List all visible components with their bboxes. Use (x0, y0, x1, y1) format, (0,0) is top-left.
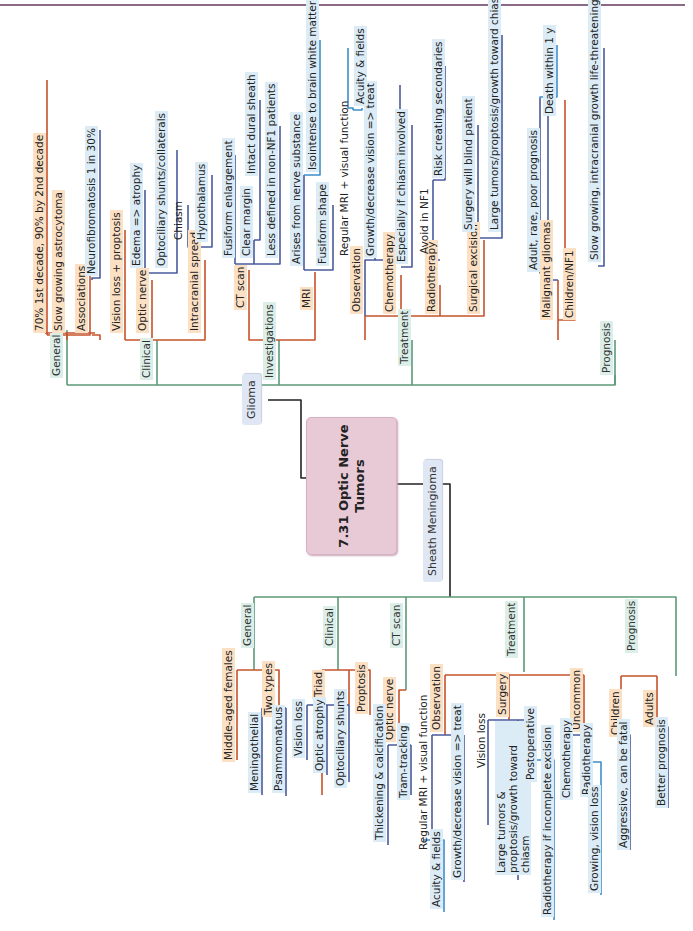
glioma-malignant-gliomas[interactable]: Malignant gliomas (540, 220, 553, 320)
root-title-line2: Tumors (352, 424, 368, 547)
root-topic[interactable]: 7.31 Optic Nerve Tumors (306, 417, 397, 555)
glioma-surgical-excision[interactable]: Surgical excision (467, 222, 480, 314)
men-tram-tracking[interactable]: Tram-tracking (397, 723, 410, 800)
men-aggressive[interactable]: Aggressive, can be fatal (617, 719, 630, 850)
glioma-regular-mri[interactable]: Regular MRI + visual function (338, 99, 351, 258)
glioma-growth-decrease[interactable]: Growth/decrease vision => treat (364, 81, 377, 258)
glioma-edema[interactable]: Edema => atrophy (130, 163, 143, 268)
glioma-treatment[interactable]: Treatment (398, 309, 411, 366)
glioma-hypothalamus[interactable]: Hypothalamus (195, 162, 208, 242)
men-better-prognosis[interactable]: Better prognosis (655, 717, 668, 808)
glioma-surgery-blind[interactable]: Surgery will blind patient (462, 96, 475, 232)
men-observation[interactable]: Observation (430, 664, 443, 732)
glioma-children-nf1[interactable]: Children/NF1 (563, 248, 576, 320)
men-growth-decrease[interactable]: Growth/decrease vision => treat (451, 703, 464, 880)
glioma-adult-rare[interactable]: Adult, rare, poor prognosis (527, 128, 540, 272)
topic-glioma[interactable]: Glioma (242, 374, 261, 425)
glioma-death-1y[interactable]: Death within 1 y (543, 25, 556, 116)
glioma-risk-secondaries[interactable]: Risk creating secondaries (432, 39, 445, 178)
glioma-clear-margin[interactable]: Clear margin (240, 186, 253, 258)
men-thickening[interactable]: Thickening & calcification (373, 704, 386, 842)
glioma-fusiform-enlargement[interactable]: Fusiform enlargement (222, 138, 235, 258)
glioma-arises-from-nerve[interactable]: Arises from nerve substance (290, 112, 303, 266)
men-postoperative[interactable]: Postoperative (524, 706, 537, 782)
glioma-general[interactable]: General (50, 333, 63, 378)
glioma-ct-scan[interactable]: CT scan (234, 265, 247, 310)
men-prognosis[interactable]: Prognosis (625, 599, 638, 653)
men-optociliary-shunts[interactable]: Optociliary shunts (334, 689, 347, 788)
men-clinical[interactable]: Clinical (323, 606, 336, 648)
glioma-isointense[interactable]: Isointense to brain white matter (306, 0, 319, 172)
glioma-investigations[interactable]: Investigations (263, 302, 276, 380)
men-growing-vision-loss[interactable]: Growing, vision loss (588, 785, 601, 893)
glioma-avoid-nf1[interactable]: Avoid in NF1 (418, 186, 431, 256)
glioma-clinical[interactable]: Clinical (140, 338, 153, 380)
glioma-less-defined[interactable]: Less defined in non-NF1 patients (265, 82, 278, 258)
glioma-chiasm[interactable]: Chiasm (172, 199, 185, 242)
glioma-slow-growing[interactable]: Slow growing, intracranial growth life-t… (588, 0, 601, 262)
glioma-mri[interactable]: MRI (300, 287, 313, 310)
men-treatment[interactable]: Treatment (505, 601, 518, 658)
glioma-fusiform-shape[interactable]: Fusiform shape (316, 182, 329, 266)
topic-sheath-meningioma[interactable]: Sheath Meningioma (423, 460, 442, 582)
men-surgery[interactable]: Surgery (496, 672, 509, 717)
glioma-large-tumors[interactable]: Large tumors/proptosis/growth toward chi… (488, 0, 501, 232)
glioma-optociliary[interactable]: Optociliary shunts/collaterals (155, 111, 168, 268)
glioma-especially-chiasm[interactable]: Especially if chiasm involved (395, 109, 408, 264)
men-proptosis[interactable]: Proptosis (355, 662, 368, 714)
men-triad[interactable]: Triad (312, 670, 325, 699)
men-radiotherapy-incomplete[interactable]: Radiotherapy if incomplete excision (541, 725, 554, 917)
men-chemotherapy[interactable]: Chemotherapy (560, 718, 573, 800)
men-psammomatous[interactable]: Psammomatous (272, 705, 285, 793)
glioma-clinical-optic-nerve[interactable]: Optic nerve (136, 268, 149, 333)
men-meningothelial[interactable]: Meningothelial (248, 712, 261, 793)
men-vision-loss[interactable]: Vision loss (292, 699, 305, 758)
root-title-line1: 7.31 Optic Nerve (336, 424, 352, 547)
men-general[interactable]: General (241, 603, 254, 648)
men-surgery-vision-loss[interactable]: Vision loss (475, 711, 488, 770)
glioma-clinical-vision-loss[interactable]: Vision loss + proptosis (110, 210, 123, 333)
men-acuity-fields[interactable]: Acuity & fields (430, 829, 443, 909)
glioma-prognosis[interactable]: Prognosis (600, 321, 613, 375)
glioma-nf1[interactable]: Neurofibromatosis 1 in 30% (85, 126, 98, 276)
glioma-general-age[interactable]: 70% 1st decade, 90% by 2nd decade (33, 133, 46, 333)
glioma-intact-dural-sheath[interactable]: Intact dural sheath (245, 72, 258, 176)
men-middle-aged[interactable]: Middle-aged females (222, 648, 235, 762)
men-optic-atrophy[interactable]: Optic atrophy (313, 697, 326, 773)
glioma-observation[interactable]: Observation (350, 246, 363, 314)
glioma-clinical-intracranial[interactable]: Intracranial spread (188, 230, 201, 333)
glioma-general-astrocytoma[interactable]: Slow growing astrocytoma (52, 190, 65, 333)
glioma-acuity-fields[interactable]: Acuity & fields (354, 26, 367, 106)
men-regular-mri[interactable]: Regular MRI + visual function (417, 693, 430, 852)
men-ct-scan[interactable]: CT scan (390, 603, 403, 648)
